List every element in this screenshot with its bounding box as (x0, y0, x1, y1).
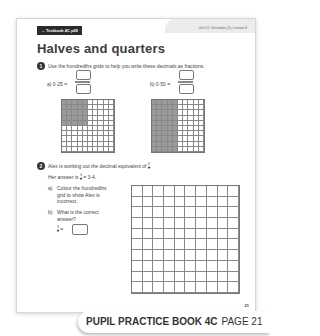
grid-cell[interactable] (207, 197, 218, 208)
grid-cell[interactable] (153, 197, 164, 208)
grid-cell[interactable] (164, 186, 175, 197)
grid-cell[interactable] (175, 207, 186, 218)
grid-cell[interactable] (207, 250, 218, 261)
grid-cell[interactable] (143, 272, 154, 283)
grid-cell[interactable] (218, 207, 229, 218)
grid-cell[interactable] (228, 250, 239, 261)
grid-cell[interactable] (153, 229, 164, 240)
grid-cell[interactable] (143, 207, 154, 218)
grid-cell[interactable] (185, 207, 196, 218)
grid-cell[interactable] (228, 218, 239, 229)
grid-cell[interactable] (153, 186, 164, 197)
grid-cell[interactable] (143, 186, 154, 197)
grid-cell[interactable] (218, 272, 229, 283)
grid-cell[interactable] (228, 186, 239, 197)
grid-cell[interactable] (164, 197, 175, 208)
grid-cell[interactable] (228, 207, 239, 218)
grid-cell[interactable] (153, 218, 164, 229)
grid-cell[interactable] (164, 250, 175, 261)
grid-cell[interactable] (153, 207, 164, 218)
grid-cell[interactable] (228, 239, 239, 250)
grid-cell[interactable] (196, 218, 207, 229)
grid-cell[interactable] (207, 229, 218, 240)
grid-cell[interactable] (196, 239, 207, 250)
grid-cell[interactable] (175, 250, 186, 261)
grid-cell[interactable] (143, 239, 154, 250)
grid-cell[interactable] (132, 282, 143, 293)
grid-cell[interactable] (132, 229, 143, 240)
grid-cell[interactable] (185, 197, 196, 208)
grid-cell[interactable] (196, 272, 207, 283)
grid-cell[interactable] (228, 261, 239, 272)
grid-cell[interactable] (196, 207, 207, 218)
grid-cell[interactable] (143, 197, 154, 208)
grid-cell[interactable] (218, 239, 229, 250)
grid-cell[interactable] (153, 261, 164, 272)
grid-cell[interactable] (218, 282, 229, 293)
grid-cell[interactable] (185, 261, 196, 272)
grid-cell[interactable] (143, 218, 154, 229)
grid-cell[interactable] (175, 239, 186, 250)
grid-cell[interactable] (143, 261, 154, 272)
hundredths-grid-q2[interactable] (131, 185, 240, 294)
grid-cell[interactable] (132, 250, 143, 261)
grid-cell[interactable] (218, 261, 229, 272)
grid-cell[interactable] (228, 229, 239, 240)
grid-cell[interactable] (164, 239, 175, 250)
grid-cell[interactable] (207, 218, 218, 229)
grid-cell[interactable] (175, 272, 186, 283)
grid-cell[interactable] (228, 272, 239, 283)
grid-cell[interactable] (143, 282, 154, 293)
grid-cell[interactable] (207, 261, 218, 272)
grid-cell[interactable] (109, 147, 114, 152)
hundredths-grid-a[interactable] (61, 99, 115, 153)
grid-cell[interactable] (175, 282, 186, 293)
q2b-answer-input[interactable] (72, 224, 88, 235)
grid-cell[interactable] (153, 282, 164, 293)
grid-cell[interactable] (218, 229, 229, 240)
grid-cell[interactable] (185, 218, 196, 229)
grid-cell[interactable] (153, 250, 164, 261)
q1b-denominator-input[interactable] (179, 84, 194, 94)
grid-cell[interactable] (175, 261, 186, 272)
grid-cell[interactable] (218, 186, 229, 197)
grid-cell[interactable] (207, 282, 218, 293)
grid-cell[interactable] (132, 272, 143, 283)
hundredths-grid-b[interactable] (151, 99, 205, 153)
grid-cell[interactable] (132, 186, 143, 197)
grid-cell[interactable] (185, 250, 196, 261)
q1b-numerator-input[interactable] (179, 70, 194, 80)
grid-cell[interactable] (199, 147, 204, 152)
grid-cell[interactable] (207, 239, 218, 250)
grid-cell[interactable] (196, 282, 207, 293)
grid-cell[interactable] (164, 261, 175, 272)
q1a-denominator-input[interactable] (76, 84, 91, 94)
grid-cell[interactable] (207, 272, 218, 283)
grid-cell[interactable] (218, 218, 229, 229)
grid-cell[interactable] (175, 186, 186, 197)
grid-cell[interactable] (143, 250, 154, 261)
grid-cell[interactable] (132, 197, 143, 208)
grid-cell[interactable] (185, 272, 196, 283)
grid-cell[interactable] (196, 261, 207, 272)
grid-cell[interactable] (228, 197, 239, 208)
grid-cell[interactable] (185, 186, 196, 197)
grid-cell[interactable] (143, 229, 154, 240)
grid-cell[interactable] (175, 197, 186, 208)
grid-cell[interactable] (132, 218, 143, 229)
grid-cell[interactable] (196, 229, 207, 240)
q1a-numerator-input[interactable] (76, 70, 91, 80)
grid-cell[interactable] (196, 250, 207, 261)
grid-cell[interactable] (164, 218, 175, 229)
grid-cell[interactable] (153, 239, 164, 250)
grid-cell[interactable] (185, 282, 196, 293)
grid-cell[interactable] (164, 229, 175, 240)
grid-cell[interactable] (153, 272, 164, 283)
grid-cell[interactable] (185, 239, 196, 250)
grid-cell[interactable] (196, 197, 207, 208)
grid-cell[interactable] (164, 282, 175, 293)
grid-cell[interactable] (207, 207, 218, 218)
grid-cell[interactable] (196, 186, 207, 197)
grid-cell[interactable] (132, 239, 143, 250)
grid-cell[interactable] (218, 250, 229, 261)
